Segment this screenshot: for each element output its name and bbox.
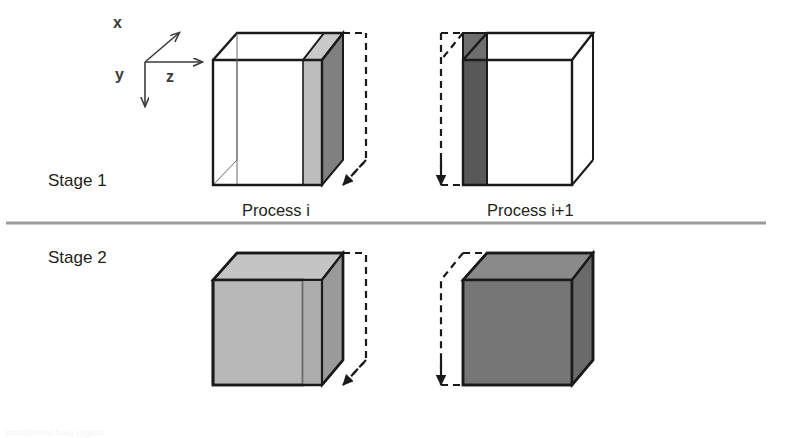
stage1-process-i-plus-1-box: Process i+1 [441, 33, 593, 219]
stage1-process-i-caption: Process i [242, 201, 310, 219]
stage2-process-i-ghost [343, 253, 366, 385]
stage2-process-i-box [213, 253, 366, 385]
axis-label-y: y [115, 66, 124, 83]
stage1-process-i-plus-1-caption: Process i+1 [487, 201, 574, 219]
axis-label-z: z [166, 68, 174, 85]
stage1-process-i-plus-1-ghost [441, 33, 463, 185]
stage1-process-i-ghost [343, 33, 366, 185]
stage1-process-i-plus-1-hidden-edges [487, 60, 572, 185]
stage1-process-i-box: Process i [213, 33, 366, 219]
stage2-process-i-slab-front [303, 280, 322, 385]
coordinate-axes: x y z [113, 14, 202, 106]
stage2-process-i-plus-1-box [441, 253, 593, 385]
cut-off-footer-text: transferred halo region [6, 428, 103, 438]
stage-1-label: Stage 1 [48, 171, 107, 190]
axis-x-arrow [145, 33, 179, 62]
stage1-process-i-plus-1-slab-front [463, 60, 487, 185]
stage-2-label: Stage 2 [48, 248, 107, 267]
stage2-process-i-front [213, 280, 303, 385]
stage2-process-i-plus-1-front [463, 280, 572, 385]
axis-label-x: x [113, 14, 122, 31]
stage1-process-i-slab-front [303, 60, 322, 185]
